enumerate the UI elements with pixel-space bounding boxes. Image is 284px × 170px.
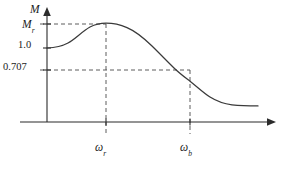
y-axis-arrow-icon — [43, 7, 51, 16]
y-tick-label-unity: 1.0 — [18, 40, 31, 51]
x-tick-label-omega-b: ωb — [180, 142, 192, 156]
x-axis-arrow-icon — [267, 118, 276, 126]
frequency-response-chart: M Mr 1.0 0.707 ωr ωb — [0, 0, 284, 170]
magnitude-response-curve — [47, 23, 258, 106]
y-axis-label: M — [30, 4, 40, 16]
y-tick-label-resonant-peak: Mr — [22, 19, 35, 33]
y-tick-label-bandwidth-level: 0.707 — [3, 62, 27, 73]
chart-plot-area — [0, 0, 284, 170]
x-tick-label-omega-r: ωr — [95, 142, 106, 156]
